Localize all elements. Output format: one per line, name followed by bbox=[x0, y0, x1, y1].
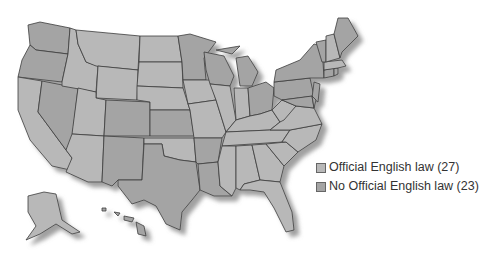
state-WY bbox=[96, 66, 138, 100]
state-RI bbox=[334, 68, 338, 76]
state-NY bbox=[274, 44, 324, 82]
legend-item-no-official: No Official English law (23) bbox=[316, 177, 479, 196]
legend-swatch-no-official bbox=[316, 182, 326, 192]
legend-item-official: Official English law (27) bbox=[316, 158, 479, 177]
state-IN bbox=[234, 88, 250, 120]
state-KS bbox=[150, 110, 194, 136]
state-SD bbox=[137, 62, 183, 88]
state-ND bbox=[139, 36, 182, 62]
state-FL bbox=[240, 180, 294, 232]
state-CO bbox=[104, 100, 150, 136]
state-HI bbox=[102, 208, 146, 236]
legend-label-official: Official English law (27) bbox=[329, 158, 459, 177]
state-AK bbox=[26, 192, 80, 240]
us-map bbox=[0, 0, 479, 254]
legend-swatch-official bbox=[316, 163, 326, 173]
legend-label-no-official: No Official English law (23) bbox=[329, 177, 479, 196]
state-NM bbox=[102, 136, 144, 186]
legend: Official English law (27) No Official En… bbox=[316, 158, 479, 196]
state-AZ bbox=[66, 134, 104, 182]
state-AR bbox=[194, 138, 222, 164]
